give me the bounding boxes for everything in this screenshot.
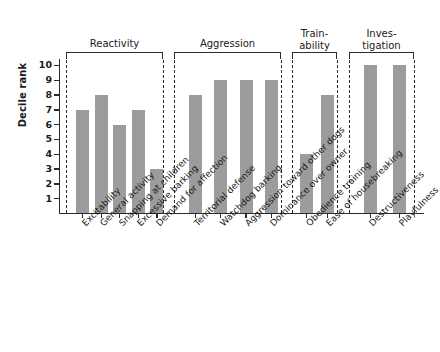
group-bracket (292, 52, 337, 59)
group-separator-left (66, 60, 67, 213)
y-tick-mark (54, 94, 59, 95)
group-label: Reactivity (52, 38, 177, 50)
y-tick-label: 2 (30, 179, 52, 189)
y-tick-label: 6 (30, 120, 52, 130)
y-tick-label-text: 10 (36, 60, 52, 69)
y-tick-label-text: 6 (36, 120, 52, 129)
group-label: Aggression (160, 38, 295, 50)
bar (76, 110, 89, 214)
y-tick-label: 1 (30, 194, 52, 204)
group-bracket (349, 52, 414, 59)
y-tick-label: 5 (30, 134, 52, 144)
y-tick-mark (54, 124, 59, 125)
y-tick-label: 9 (30, 75, 52, 85)
y-tick-label-text: 2 (36, 179, 52, 188)
y-tick-label-text: 4 (36, 149, 52, 158)
y-axis-title: Decile rank (17, 53, 31, 137)
y-tick-mark (54, 168, 59, 169)
y-tick-label: 7 (30, 105, 52, 115)
group-label: Inves- tigation (335, 28, 428, 51)
y-tick-label-text: 1 (36, 194, 52, 203)
group-separator-left (349, 60, 350, 213)
y-tick-label: 4 (30, 149, 52, 159)
y-tick-label-text: 3 (36, 164, 52, 173)
y-tick-label: 10 (30, 60, 52, 70)
y-tick-mark (54, 198, 59, 199)
y-tick-label-text: 8 (36, 90, 52, 99)
y-tick-mark (54, 109, 59, 110)
y-tick-label-text: 5 (36, 134, 52, 143)
group-separator-right (414, 60, 415, 213)
y-tick-label-text: 7 (36, 105, 52, 114)
y-tick-label-text: 9 (36, 75, 52, 84)
group-bracket (66, 52, 163, 59)
y-tick-label: 3 (30, 164, 52, 174)
y-tick-label: 8 (30, 90, 52, 100)
y-tick-mark (54, 154, 59, 155)
y-tick-mark (54, 65, 59, 66)
group-bracket (174, 52, 281, 59)
y-tick-mark (54, 139, 59, 140)
y-tick-mark (54, 80, 59, 81)
group-separator-left (292, 60, 293, 213)
y-tick-mark (54, 183, 59, 184)
y-axis-line (59, 59, 60, 214)
